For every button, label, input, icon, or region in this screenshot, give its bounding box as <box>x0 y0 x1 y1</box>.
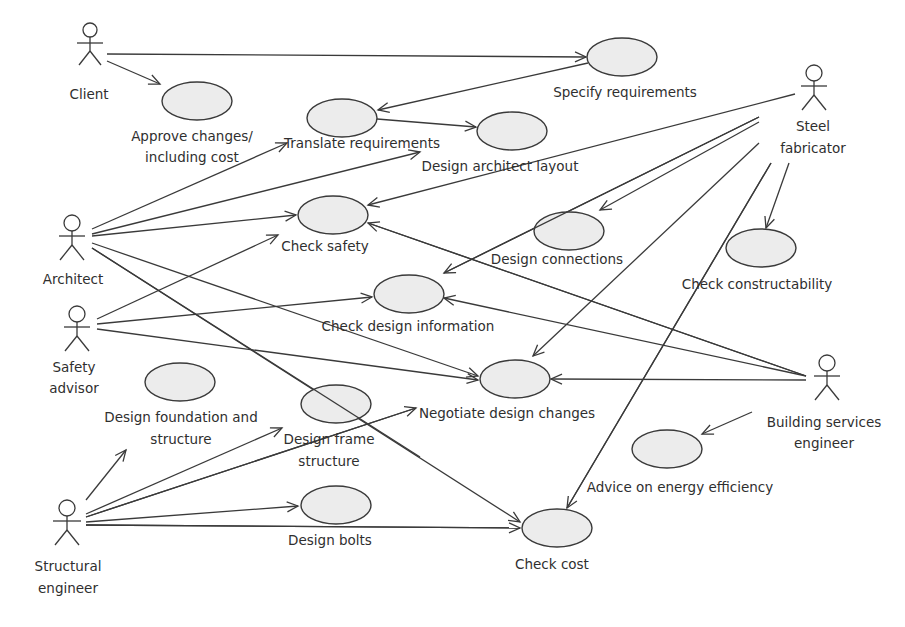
person-icon <box>69 306 85 322</box>
usecase-label-approve-2: including cost <box>145 149 239 166</box>
usecase-design-connections[interactable] <box>534 212 604 250</box>
actor-label-structural-engineer-2: engineer <box>38 580 98 597</box>
assoc-client-approve <box>107 61 160 84</box>
usecase-advice-energy-efficiency[interactable] <box>632 430 702 468</box>
actor-safety-advisor-figure[interactable] <box>64 306 90 351</box>
usecase-label-frame-2: structure <box>298 453 359 470</box>
usecase-label-layout: Design architect layout <box>422 158 579 175</box>
usecase-label-approve-1: Approve changes/ <box>131 128 253 145</box>
usecase-check-design-information[interactable] <box>374 275 444 313</box>
usecase-design-architect-layout[interactable] <box>477 112 547 150</box>
usecase-label-foundation-2: structure <box>150 431 211 448</box>
assoc-architect-layout <box>92 152 420 234</box>
actor-label-building-services-1: Building services <box>767 414 881 431</box>
actor-client-figure[interactable] <box>77 23 103 65</box>
usecase-label-check-cost: Check cost <box>515 556 589 573</box>
usecase-design-bolts[interactable] <box>301 486 371 524</box>
actor-structural-engineer-figure[interactable] <box>53 500 81 545</box>
assoc-safety-checksafety <box>97 235 278 319</box>
usecase-label-connections: Design connections <box>491 251 623 268</box>
actor-label-steel-fabricator-2: fabricator <box>780 140 846 157</box>
assoc-steel-constructability <box>766 163 789 228</box>
actor-label-safety-advisor-2: advisor <box>49 380 98 397</box>
usecase-check-safety[interactable] <box>298 196 368 234</box>
actor-building-services-engineer-figure[interactable] <box>814 355 840 400</box>
usecase-label-design-info: Check design information <box>322 318 495 335</box>
usecase-check-constructability[interactable] <box>726 229 796 267</box>
assoc-client-specify <box>107 54 586 57</box>
assoc-building-energy <box>702 412 752 434</box>
actor-label-structural-engineer-1: Structural <box>35 558 102 575</box>
usecase-label-energy: Advice on energy efficiency <box>587 479 774 496</box>
actor-label-architect: Architect <box>43 271 104 288</box>
person-icon <box>806 65 822 81</box>
assoc-translate-layout <box>377 119 476 127</box>
person-icon <box>819 355 835 371</box>
usecase-translate-requirements[interactable] <box>307 99 377 137</box>
usecase-approve-changes[interactable] <box>162 82 232 120</box>
usecase-label-translate: Translate requirements <box>284 135 440 152</box>
actor-label-steel-fabricator-1: Steel <box>796 118 830 135</box>
actor-label-building-services-2: engineer <box>794 435 854 452</box>
usecase-label-check-safety: Check safety <box>281 238 368 255</box>
person-icon <box>59 500 75 516</box>
actor-architect-figure[interactable] <box>59 215 85 260</box>
actor-steel-fabricator-figure[interactable] <box>801 65 827 110</box>
usecase-label-frame-1: Design frame <box>284 431 375 448</box>
usecase-label-specify: Specify requirements <box>553 84 697 101</box>
use-case-diagram <box>0 0 905 627</box>
usecase-label-constructability: Check constructability <box>682 276 833 293</box>
actor-label-safety-advisor-1: Safety <box>52 359 95 376</box>
assoc-architect-safety <box>92 215 296 236</box>
usecase-label-foundation-1: Design foundation and <box>104 409 257 426</box>
usecase-check-cost[interactable] <box>522 509 592 547</box>
person-icon <box>64 215 80 231</box>
usecase-design-foundation[interactable] <box>145 363 215 401</box>
assoc-structural-bolts <box>86 506 298 522</box>
usecase-negotiate-design-changes[interactable] <box>480 360 550 398</box>
usecase-label-negotiate: Negotiate design changes <box>419 405 595 422</box>
assoc-building-negotiate <box>551 379 806 380</box>
actor-label-client: Client <box>69 86 108 103</box>
usecase-label-bolts: Design bolts <box>288 532 372 549</box>
assoc-structural-foundation <box>86 450 126 500</box>
usecase-specify-requirements[interactable] <box>587 38 657 76</box>
person-icon <box>83 23 97 37</box>
